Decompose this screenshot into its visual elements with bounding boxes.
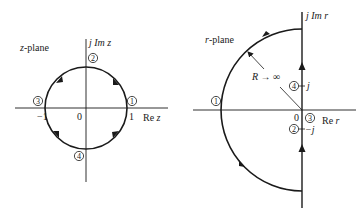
svg-text:2: 2 [292, 125, 296, 134]
svg-text:2: 2 [91, 54, 95, 63]
svg-text:1: 1 [214, 97, 218, 106]
radius-line-lower [280, 87, 302, 110]
z-tick-origin: 0 [77, 111, 82, 122]
svg-text:4: 4 [292, 82, 296, 91]
radius-label: R → ∞ [251, 71, 280, 82]
z-real-axis-label: Re z [143, 112, 161, 123]
r-real-axis-label: Re r [322, 115, 340, 126]
z-point-2: 2 [88, 53, 97, 63]
svg-text:1: 1 [130, 97, 134, 106]
svg-text:3: 3 [308, 114, 312, 123]
r-point-3: 3 [305, 113, 314, 123]
r-point-1: 1 [211, 96, 220, 106]
r-plane-title: r-plane [205, 34, 234, 45]
r-imag-axis-label: j Im r [304, 10, 328, 21]
z-plane: z-plane j Im z Re z −1 0 1 1 2 [15, 37, 168, 182]
svg-text:4: 4 [77, 152, 81, 161]
z-plane-title: z-plane [19, 42, 49, 53]
arrow-icon [299, 62, 306, 70]
r-plane: r-plane j Im r Re r R → ∞ j −j 0 1 [193, 10, 356, 208]
diagram-canvas: z-plane j Im z Re z −1 0 1 1 2 [0, 0, 356, 219]
r-tick-j: j [305, 80, 310, 91]
r-point-4: 4 [289, 81, 298, 91]
r-tick-neg-j: −j [305, 124, 315, 135]
z-point-4: 4 [74, 151, 83, 161]
arrow-icon [299, 144, 306, 152]
z-point-1: 1 [127, 96, 136, 106]
z-point-3: 3 [33, 96, 42, 106]
r-tick-origin: 0 [294, 112, 299, 123]
z-imag-axis-label: j Im z [87, 37, 111, 48]
svg-text:3: 3 [36, 97, 40, 106]
z-tick-neg-one: −1 [37, 111, 48, 122]
z-tick-one: 1 [129, 111, 134, 122]
r-point-2: 2 [289, 124, 298, 134]
radius-arrow [248, 52, 264, 69]
